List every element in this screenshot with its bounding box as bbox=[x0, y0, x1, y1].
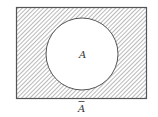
venn-diagram: A A bbox=[0, 0, 158, 117]
complement-label: A bbox=[77, 103, 85, 114]
set-a-label: A bbox=[78, 49, 86, 60]
